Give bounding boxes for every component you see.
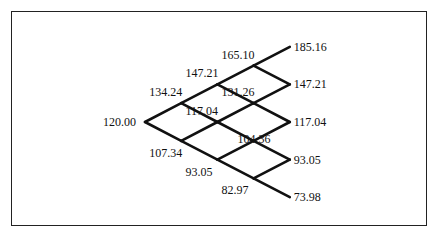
tree-branch xyxy=(145,122,181,141)
node-value-label: 104.36 xyxy=(238,133,271,145)
node-value-label: 147.21 xyxy=(185,67,218,79)
tree-branch xyxy=(181,122,217,141)
tree-branch xyxy=(254,160,290,179)
binomial-tree-lines xyxy=(0,0,441,240)
tree-branch xyxy=(181,84,217,103)
node-value-label: 165.10 xyxy=(222,49,255,61)
tree-branch xyxy=(181,141,217,160)
tree-branch xyxy=(254,47,290,66)
tree-branch xyxy=(145,103,181,122)
tree-branch xyxy=(254,84,290,103)
node-value-label: 93.05 xyxy=(185,166,212,178)
node-value-label: 120.00 xyxy=(103,116,136,128)
node-value-label: 82.97 xyxy=(222,184,249,196)
node-value-label: 117.04 xyxy=(294,116,327,128)
node-value-label: 131.26 xyxy=(222,86,255,98)
tree-branch xyxy=(217,160,253,179)
node-value-label: 185.16 xyxy=(294,41,327,53)
node-value-label: 93.05 xyxy=(294,154,321,166)
node-value-label: 107.34 xyxy=(149,147,182,159)
tree-branch xyxy=(217,66,253,85)
node-value-label: 117.04 xyxy=(185,105,218,117)
tree-branch xyxy=(217,103,253,122)
tree-branch xyxy=(254,103,290,122)
tree-branch xyxy=(254,66,290,85)
node-value-label: 134.24 xyxy=(149,86,182,98)
tree-branch xyxy=(254,178,290,197)
node-value-label: 147.21 xyxy=(294,78,327,90)
node-value-label: 73.98 xyxy=(294,191,321,203)
